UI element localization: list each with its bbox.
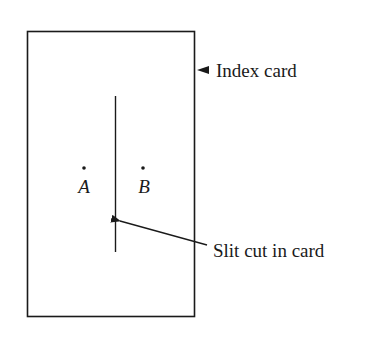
point-b-dot xyxy=(141,166,145,170)
index-card-arrow-icon xyxy=(197,66,209,74)
point-b-label: B xyxy=(138,176,150,197)
index-card-diagram: A B Index card Slit cut in card xyxy=(0,0,368,352)
point-a-dot xyxy=(82,166,86,170)
index-card-label: Index card xyxy=(216,60,297,81)
point-a-label: A xyxy=(76,176,90,197)
slit-label: Slit cut in card xyxy=(213,240,325,261)
index-card xyxy=(28,32,195,317)
